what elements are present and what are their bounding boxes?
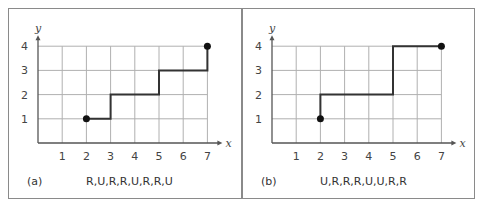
y-tick-label: 3 [255,64,262,77]
panel-b-sequence: U,R,R,R,U,U,R,R [320,175,407,188]
end-point [204,43,211,50]
x-tick-label: 2 [83,150,90,163]
x-axis-label: x [225,137,232,150]
panel-a-sequence: R,U,R,R,U,R,R,U [86,175,173,188]
y-tick-label: 4 [21,40,28,53]
y-tick-label: 3 [21,64,28,77]
panel-b-label: (b) [261,175,277,188]
x-tick-label: 7 [438,150,445,163]
x-tick-label: 1 [293,150,300,163]
x-axis-label: x [459,137,466,150]
y-arrow-icon [270,35,275,40]
y-tick-label: 1 [21,113,28,126]
y-arrow-icon [36,35,41,40]
start-point [83,115,90,122]
y-tick-label: 1 [255,113,262,126]
x-tick-label: 5 [390,150,397,163]
y-tick-label: 2 [21,89,28,102]
end-point [438,43,445,50]
x-tick-label: 4 [365,150,372,163]
x-tick-label: 5 [156,150,163,163]
x-tick-label: 1 [59,150,66,163]
x-tick-label: 3 [107,150,114,163]
route-path [86,46,207,119]
start-point [317,115,324,122]
y-tick-label: 2 [255,89,262,102]
x-tick-label: 2 [317,150,324,163]
y-tick-label: 4 [255,40,262,53]
y-axis-label: y [268,22,276,35]
x-tick-label: 6 [180,150,187,163]
x-tick-label: 3 [341,150,348,163]
x-tick-label: 4 [131,150,138,163]
x-tick-label: 7 [204,150,211,163]
y-axis-label: y [34,22,42,35]
x-arrow-icon [217,141,222,146]
route-path [320,46,441,119]
x-arrow-icon [451,141,456,146]
panel-a-label: (a) [27,175,42,188]
x-tick-label: 6 [414,150,421,163]
